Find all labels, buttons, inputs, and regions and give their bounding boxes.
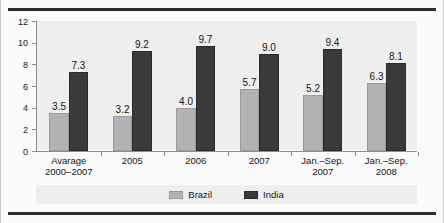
- bar-brazil: 3.5: [49, 113, 68, 151]
- y-axis-tick-label: 6: [23, 82, 28, 92]
- bar-value-label: 9.4: [325, 37, 339, 48]
- bar-india: 9.4: [323, 49, 342, 151]
- bar-value-label: 9.2: [135, 39, 149, 50]
- legend-item-brazil: Brazil: [169, 189, 212, 200]
- bar-value-label: 5.2: [306, 83, 320, 94]
- legend-item-india: India: [244, 189, 284, 200]
- bar-brazil: 5.2: [303, 95, 322, 151]
- frame-border-left: [0, 0, 1, 223]
- legend-swatch-brazil-icon: [169, 191, 183, 199]
- bar-brazil: 6.3: [367, 83, 386, 151]
- bar-value-label: 6.3: [370, 71, 384, 82]
- bar-value-label: 9.0: [262, 42, 276, 53]
- x-axis-category-label: 2007: [249, 155, 270, 166]
- chart-figure: 024681012 3.57.33.29.24.09.75.79.05.29.4…: [0, 0, 444, 223]
- bar-india: 9.7: [196, 46, 215, 151]
- bar-india: 8.1: [386, 63, 405, 151]
- y-axis-tick-label: 4: [23, 103, 28, 113]
- x-axis-category-label: 2005: [122, 155, 143, 166]
- x-axis-category-label: 2006: [185, 155, 206, 166]
- y-axis-tick-label: 0: [23, 147, 28, 157]
- x-axis-category-label: Avarage2000–2007: [45, 155, 93, 177]
- legend-label-brazil: Brazil: [188, 189, 212, 200]
- x-axis-tick: [418, 152, 419, 156]
- bar-value-label: 3.5: [52, 101, 66, 112]
- bar-value-label: 4.0: [179, 96, 193, 107]
- bar-value-label: 8.1: [389, 51, 403, 62]
- chart-legend: Brazil India: [36, 185, 417, 204]
- y-axis-tick-label: 2: [23, 125, 28, 135]
- legend-swatch-india-icon: [244, 191, 258, 199]
- bar-india: 9.2: [132, 51, 151, 151]
- y-axis-tick-label: 12: [18, 17, 28, 27]
- x-axis-category-label: Jan.–Sep.2007: [301, 155, 344, 177]
- bar-value-label: 7.3: [71, 60, 85, 71]
- legend-label-india: India: [263, 189, 284, 200]
- y-axis-tick-label: 8: [23, 60, 28, 70]
- x-axis: [36, 151, 417, 152]
- bars-layer: 3.57.33.29.24.09.75.79.05.29.46.38.1: [37, 21, 417, 151]
- bottom-rule: [8, 212, 436, 215]
- bar-india: 7.3: [69, 72, 88, 151]
- bar-brazil: 3.2: [113, 116, 132, 151]
- bar-value-label: 3.2: [116, 104, 130, 115]
- y-axis-tick-label: 10: [18, 38, 28, 48]
- x-axis-category-label: Jan.–Sep.2008: [365, 155, 408, 177]
- bar-brazil: 4.0: [176, 108, 195, 151]
- bar-value-label: 9.7: [198, 34, 212, 45]
- x-axis-category-labels: Avarage2000–2007200520062007Jan.–Sep.200…: [37, 155, 417, 181]
- top-rule: [8, 8, 436, 11]
- bar-india: 9.0: [259, 54, 278, 152]
- bar-value-label: 5.7: [243, 77, 257, 88]
- y-axis-tick: 0: [32, 151, 37, 152]
- bar-brazil: 5.7: [240, 89, 259, 151]
